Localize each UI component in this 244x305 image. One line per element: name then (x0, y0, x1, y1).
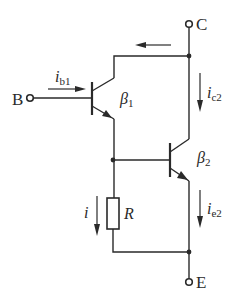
terminal-b: B (12, 90, 33, 109)
terminal-c-label: C (196, 15, 207, 34)
resistor-label: R (123, 205, 134, 222)
svg-text:ic2: ic2 (207, 84, 222, 103)
resistor-body (107, 198, 119, 229)
terminal-c-circle (186, 21, 193, 28)
arrow-right-icon (75, 86, 86, 92)
beta2-label: β2 (196, 149, 210, 168)
t2-collector-lead (170, 139, 189, 152)
current-ic2: ic2 (197, 73, 222, 112)
transistor-t2: β2 (170, 124, 210, 181)
circuit-diagram: C B ib1 β1 ic2 (0, 0, 244, 305)
terminal-e-label: E (196, 273, 206, 292)
arrow-down-icon (94, 224, 100, 236)
resistor-bottom-wire (113, 229, 189, 252)
ie2-subscript: e2 (211, 207, 221, 219)
current-i-label: i (84, 204, 88, 221)
t2-emitter-arrow-icon (177, 171, 188, 180)
arrow-left-icon (135, 42, 171, 48)
current-ie2: ie2 (197, 190, 222, 228)
t1-emitter-arrow-icon (102, 110, 112, 118)
junction-dot-bottom (187, 250, 192, 255)
arrow-down-icon (197, 216, 203, 228)
ib1-subscript: b1 (59, 75, 70, 87)
current-i: i (84, 196, 100, 236)
svg-text:ie2: ie2 (207, 200, 222, 219)
beta1-label: β1 (119, 90, 133, 109)
terminal-b-label: B (12, 90, 23, 109)
t1-collector-wire (114, 56, 189, 78)
terminal-e-circle (186, 279, 193, 286)
resistor-r: R (107, 198, 134, 229)
arrow-down-icon (197, 100, 203, 112)
svg-text:ib1: ib1 (55, 68, 70, 87)
current-ib1: ib1 (48, 68, 86, 92)
transistor-t1: β1 (92, 78, 133, 119)
ic2-subscript: c2 (211, 91, 221, 103)
t1-collector-lead (92, 78, 114, 91)
terminal-b-circle (27, 95, 34, 102)
